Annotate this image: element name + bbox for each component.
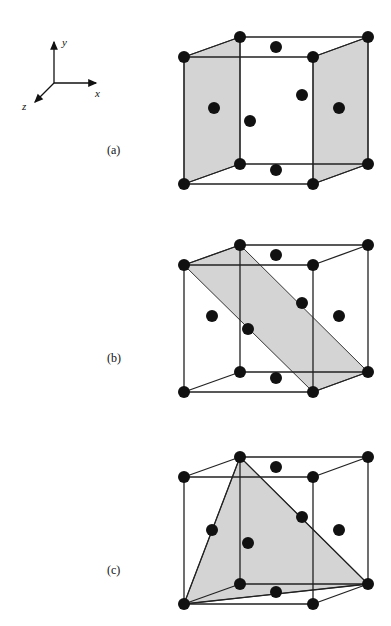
panel-label-a: (a)	[107, 143, 120, 157]
coordinate-axes: y x z	[21, 36, 100, 112]
panel-label-b: (b)	[107, 351, 121, 365]
cube-b: (b)	[107, 239, 374, 398]
x-axis-label: x	[94, 87, 100, 99]
panel-label-c: (c)	[107, 563, 120, 577]
cube-a: (a)	[107, 31, 374, 190]
z-axis-label: z	[21, 100, 27, 112]
y-axis-label: y	[61, 36, 67, 48]
crystal-planes-figure: y x z (a)	[0, 0, 391, 626]
cube-c: (c)	[107, 451, 374, 610]
